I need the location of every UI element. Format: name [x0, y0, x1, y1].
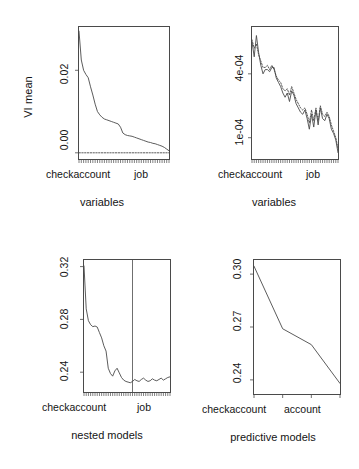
y-tick-label: 0.28 [58, 305, 70, 333]
axis-ticks-oob-predictive [253, 259, 341, 395]
figure-canvas: VI mean 0.02 0.00 checkaccount job varia… [0, 0, 359, 469]
axis-ticks-vi-mean [78, 26, 170, 160]
y-tick-label: 0.24 [58, 357, 70, 385]
x-axis-title-vi-mean: variables [56, 196, 148, 208]
y-tick-label: 0.32 [58, 253, 70, 281]
panel-vi-sd: VI standard deviation 4e-04 1e-04 checka… [180, 0, 359, 234]
y-tick-label: 0.30 [231, 254, 243, 284]
x-tick-label: checkaccount [202, 403, 266, 415]
x-tick-label: job [134, 168, 148, 180]
y-tick-label: 0.00 [58, 126, 70, 154]
y-tick-label: 4e-04 [233, 51, 245, 85]
panel-vi-mean: VI mean 0.02 0.00 checkaccount job varia… [0, 0, 179, 234]
panel-oob-nested: OOB error 0.32 0.28 0.24 checkaccount jo… [0, 235, 179, 469]
x-tick-label: checkaccount [42, 401, 106, 413]
y-tick-label: 0.27 [231, 306, 243, 336]
axis-ticks-oob-nested [83, 259, 171, 393]
x-axis-title-oob-predictive: predictive models [208, 431, 338, 443]
axis-ticks-vi-sd [251, 26, 339, 160]
x-tick-label: checkaccount [46, 168, 110, 180]
y-tick-label: 0.24 [231, 358, 243, 388]
y-axis-title-vi-mean: VI mean [22, 22, 34, 172]
x-tick-label: job [137, 401, 151, 413]
x-tick-label: checkaccount [218, 168, 282, 180]
x-axis-title-vi-sd: variables [228, 196, 320, 208]
x-axis-title-oob-nested: nested models [52, 429, 162, 441]
x-tick-label: account [284, 403, 321, 415]
panel-oob-predictive: OOB error 0.30 0.27 0.24 checkaccount ac… [180, 235, 359, 469]
y-tick-label: 0.02 [58, 60, 70, 88]
y-tick-label: 1e-04 [233, 115, 245, 149]
x-tick-label: job [306, 168, 320, 180]
